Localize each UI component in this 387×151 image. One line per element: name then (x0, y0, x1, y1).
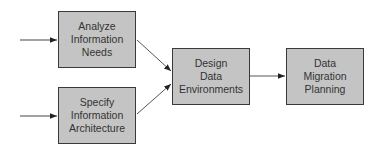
node-label-line: Design (179, 57, 243, 70)
node-data-migration-planning: Data Migration Planning (286, 48, 364, 105)
node-label-line: Planning (303, 83, 346, 96)
node-label-line: Data (179, 70, 243, 83)
node-design-data-environments: Design Data Environments (172, 48, 250, 105)
node-label-line: Information (71, 33, 124, 46)
node-analyze-information-needs: Analyze Information Needs (58, 11, 136, 68)
arrow-analyze-to-design (137, 40, 171, 71)
node-label-line: Data (303, 57, 346, 70)
node-label-line: Migration (303, 70, 346, 83)
node-specify-information-architecture: Specify Information Architecture (58, 87, 136, 144)
node-label-line: Architecture (69, 122, 125, 135)
arrow-specify-to-design (137, 84, 171, 114)
node-label-line: Needs (71, 46, 124, 59)
node-label-line: Information (69, 109, 125, 122)
node-label-line: Environments (179, 83, 243, 96)
node-label-line: Specify (69, 96, 125, 109)
node-label-line: Analyze (71, 20, 124, 33)
